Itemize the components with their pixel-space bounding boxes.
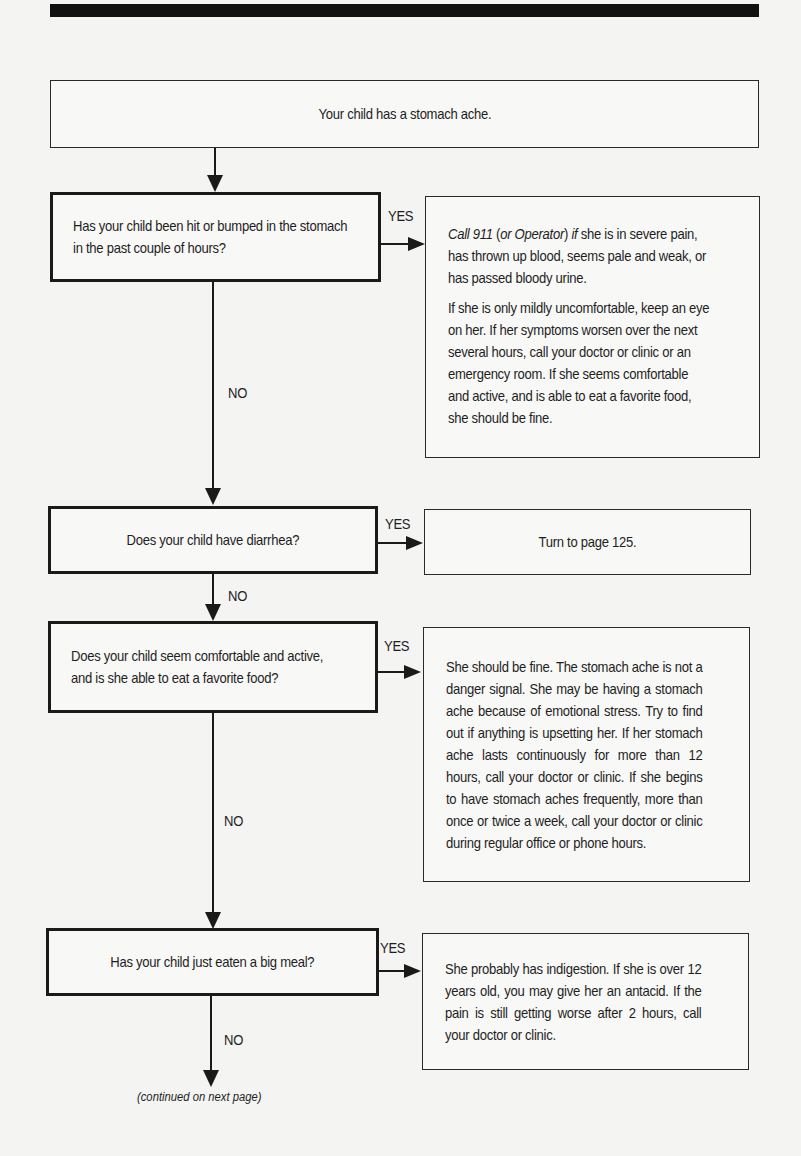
no-connector-4	[210, 996, 212, 1076]
arrow-right-icon	[404, 964, 421, 978]
continued-note: (continued on next page)	[137, 1090, 261, 1104]
connector-start-q1	[214, 148, 216, 178]
question-box-1: Has your child been hit or bumped in the…	[50, 192, 381, 282]
answer-1-mild: If she is only mildly uncomfortable, kee…	[448, 297, 710, 429]
arrow-down-icon	[207, 175, 223, 192]
no-label-1: NO	[228, 385, 247, 401]
no-label-2: NO	[228, 588, 247, 604]
answer-box-3: She should be fine. The stomach ache is …	[423, 627, 750, 882]
question-box-3: Does your child seem comfortable and act…	[48, 621, 378, 713]
question-text-4: Has your child just eaten a big meal?	[110, 951, 314, 973]
yes-connector-4	[379, 970, 407, 972]
arrow-down-icon	[205, 604, 221, 621]
start-box: Your child has a stomach ache.	[50, 80, 759, 148]
no-connector-2	[212, 574, 214, 608]
no-connector-3	[212, 713, 214, 923]
answer-box-1: Call 911 (or Operator) if she is in seve…	[425, 196, 760, 458]
arrow-down-icon	[205, 912, 221, 929]
yes-connector-1	[381, 243, 411, 245]
arrow-down-icon	[205, 488, 221, 505]
yes-label-3: YES	[384, 638, 409, 654]
answer-box-2: Turn to page 125.	[424, 509, 751, 575]
no-connector-1	[212, 282, 214, 492]
start-text: Your child has a stomach ache.	[318, 103, 491, 125]
answer-text-3: She should be fine. The stomach ache is …	[446, 656, 703, 854]
question-box-4: Has your child just eaten a big meal?	[46, 928, 379, 996]
arrow-right-icon	[404, 665, 421, 679]
arrow-right-icon	[408, 237, 425, 251]
arrow-down-icon	[203, 1070, 219, 1087]
answer-1-emergency: Call 911 (or Operator) if she is in seve…	[448, 223, 710, 289]
arrow-right-icon	[406, 536, 423, 550]
answer-box-4: She probably has indigestion. If she is …	[422, 933, 749, 1070]
question-text-1: Has your child been hit or bumped in the…	[73, 215, 348, 259]
header-bar	[50, 4, 759, 17]
no-label-3: NO	[224, 813, 243, 829]
answer-text-2: Turn to page 125.	[539, 531, 637, 553]
yes-label-1: YES	[388, 208, 413, 224]
yes-connector-2	[378, 542, 408, 544]
answer-text-4: She probably has indigestion. If she is …	[445, 958, 702, 1046]
question-text-3: Does your child seem comfortable and act…	[71, 645, 345, 689]
no-label-4: NO	[224, 1032, 243, 1048]
yes-label-2: YES	[385, 516, 410, 532]
question-box-2: Does your child have diarrhea?	[48, 506, 378, 574]
question-text-2: Does your child have diarrhea?	[127, 529, 300, 551]
yes-label-4: YES	[380, 940, 405, 956]
